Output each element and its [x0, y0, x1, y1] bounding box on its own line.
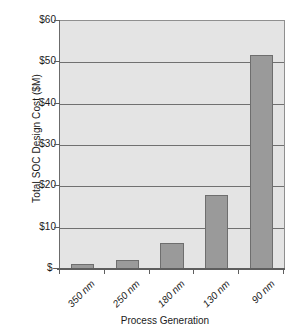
soc-design-cost-bar-chart: Total SOC Design Cost ($M) $60$50$40$30$…	[0, 0, 307, 332]
x-axis-title: Process Generation	[40, 315, 290, 326]
x-axis-tick-labels: 350 nm250 nm180 nm130 nm90 nm	[0, 0, 307, 332]
